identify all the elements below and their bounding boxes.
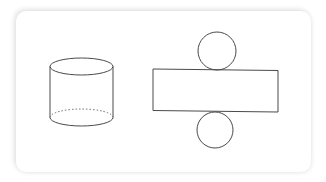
cylinder-net-diagram bbox=[0, 0, 326, 182]
cylinder-bottom-front-edge bbox=[50, 118, 113, 127]
cylinder-bottom-hidden-edge bbox=[50, 109, 113, 118]
net-bottom-circle bbox=[197, 112, 233, 148]
cylinder-net bbox=[153, 32, 278, 148]
cylinder-figure bbox=[50, 58, 113, 126]
cylinder-top-face bbox=[50, 58, 113, 75]
net-top-circle bbox=[198, 32, 236, 70]
net-lateral-rectangle bbox=[153, 69, 278, 112]
